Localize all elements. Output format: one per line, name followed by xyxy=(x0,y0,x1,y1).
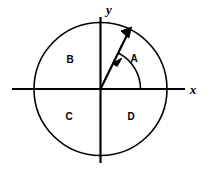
region-label-b: B xyxy=(66,54,73,65)
angle-ray-arrowhead xyxy=(121,27,132,38)
x-axis-label: x xyxy=(189,82,197,97)
figure-canvas: y x A B C D xyxy=(0,0,211,174)
angle-ray xyxy=(101,33,129,89)
y-axis-label: y xyxy=(104,2,112,17)
region-label-d: D xyxy=(127,111,134,122)
region-label-a: A xyxy=(130,53,137,64)
region-label-c: C xyxy=(65,111,72,122)
unit-circle-diagram: y x A B C D xyxy=(0,0,211,174)
